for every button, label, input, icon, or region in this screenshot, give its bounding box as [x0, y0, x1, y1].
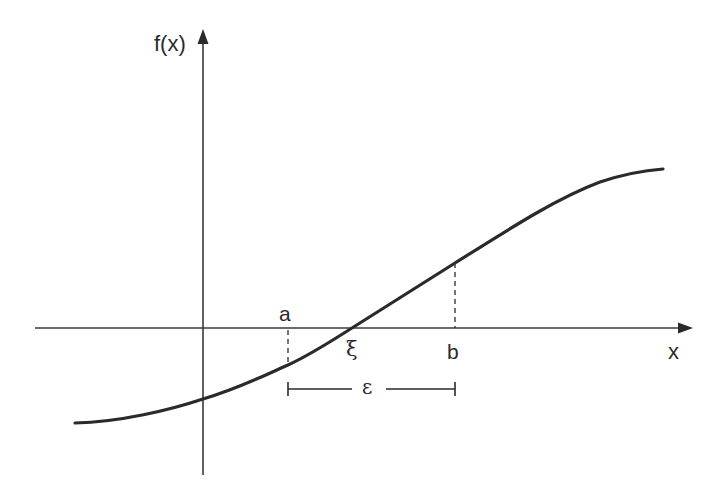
root-xi-label: ξ	[346, 339, 358, 360]
diagram-canvas	[0, 0, 727, 499]
x-axis-label: x	[668, 341, 679, 363]
y-axis-arrow-icon	[198, 29, 209, 44]
epsilon-label: ε	[362, 377, 372, 397]
y-axis-label: f(x)	[154, 33, 186, 55]
point-a-label: a	[279, 303, 291, 324]
point-b-label: b	[447, 341, 459, 362]
x-axis-arrow-icon	[678, 323, 693, 334]
